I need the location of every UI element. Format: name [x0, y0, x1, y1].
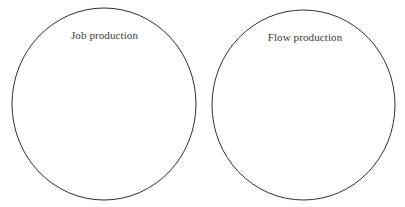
flow-production-label: Flow production	[200, 31, 405, 44]
job-production-label: Job production	[0, 29, 209, 42]
venn-diagram-canvas: Job production Flow production	[0, 0, 405, 207]
